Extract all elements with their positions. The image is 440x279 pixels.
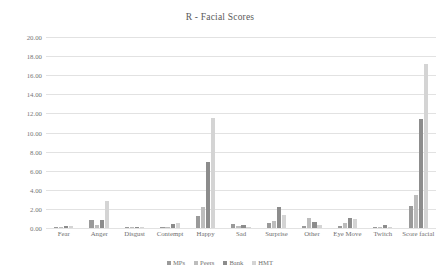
bar [165,227,169,228]
bar [317,225,321,228]
bar-group [117,37,152,228]
bar [307,218,311,228]
bar [419,119,423,228]
bar [95,225,99,228]
bar [206,162,210,228]
bar-group [223,37,258,228]
bar-group [152,37,187,228]
bar [277,207,281,228]
bar [388,227,392,228]
legend-item[interactable]: HMT [252,259,273,266]
chart-container: R - Facial Scores 20.0018.0016.0014.0012… [0,0,440,279]
chart-title: R - Facial Scores [0,12,440,22]
y-axis-tick-label: 12.00 [27,110,42,117]
legend-label: HMT [258,259,273,266]
y-axis-tick-label: 14.00 [27,91,42,98]
bar-group [188,37,223,228]
bar [140,227,144,228]
bar [64,226,68,228]
bar [424,64,428,228]
bar [135,227,139,228]
bar [236,226,240,228]
y-axis-tick-label: 4.00 [30,186,42,193]
x-axis-tick-label: Disgust [124,230,145,237]
x-axis-tick-label: Sad [236,230,246,237]
legend-swatch-icon [252,261,256,265]
x-axis-tick-label: Other [304,230,319,237]
bar [338,226,342,228]
bar [176,223,180,228]
bar [171,224,175,228]
bar-group [330,37,365,228]
y-axis-tick-label: 6.00 [30,167,42,174]
bar [383,225,387,228]
bar [241,225,245,228]
y-axis-tick-label: 2.00 [30,205,42,212]
bar-group [81,37,116,228]
bar-group [259,37,294,228]
bar [125,227,129,228]
plot-area [46,37,436,228]
bar [201,207,205,228]
bar-group [46,37,81,228]
y-axis-labels: 20.0018.0016.0014.0012.0010.008.006.004.… [0,37,42,228]
bar [312,222,316,228]
x-axis-tick-label: Happy [196,230,214,237]
bar [89,220,93,228]
bar [130,227,134,228]
y-axis-tick-label: 8.00 [30,148,42,155]
bar [105,201,109,228]
chart-legend: MPsPeersBankHMT [0,259,440,266]
legend-item[interactable]: MPs [167,259,185,266]
legend-item[interactable]: Bank [223,259,243,266]
x-axis-tick-label: Score facial [402,230,434,237]
bar [302,226,306,228]
bar [160,227,164,228]
bar [211,118,215,228]
legend-label: Peers [200,259,214,266]
bar [378,227,382,228]
legend-item[interactable]: Peers [194,259,214,266]
x-axis-labels: FearAngerDisgustContemptHappySadSurprise… [46,230,436,244]
bar-group [294,37,329,228]
bar-group [401,37,436,228]
legend-swatch-icon [167,261,171,265]
bar [414,195,418,228]
y-axis-tick-label: 16.00 [27,72,42,79]
bar [409,206,413,228]
bar [69,226,73,228]
bar [353,219,357,228]
legend-label: MPs [173,259,185,266]
bar [246,227,250,228]
bar [267,223,271,228]
bar [343,223,347,228]
y-axis-tick-label: 10.00 [27,129,42,136]
bar [196,216,200,228]
bar-group [365,37,400,228]
bar [100,220,104,228]
bar [54,227,58,228]
gridline [46,228,436,229]
x-axis-tick-label: Fear [58,230,70,237]
bar-groups [46,37,436,228]
y-axis-tick-label: 0.00 [30,225,42,232]
legend-swatch-icon [194,261,198,265]
x-axis-tick-label: Anger [91,230,108,237]
legend-label: Bank [229,259,243,266]
y-axis-tick-label: 18.00 [27,53,42,60]
y-axis-tick-label: 20.00 [27,34,42,41]
x-axis-tick-label: Twitch [373,230,392,237]
legend-swatch-icon [223,261,227,265]
bar [348,218,352,228]
x-axis-tick-label: Eye Move [333,230,361,237]
x-axis-tick-label: Surprise [265,230,288,237]
bar [231,224,235,228]
x-axis-tick-label: Contempt [157,230,184,237]
bar [282,215,286,228]
bar [373,227,377,228]
bar [272,221,276,228]
bar [59,227,63,228]
